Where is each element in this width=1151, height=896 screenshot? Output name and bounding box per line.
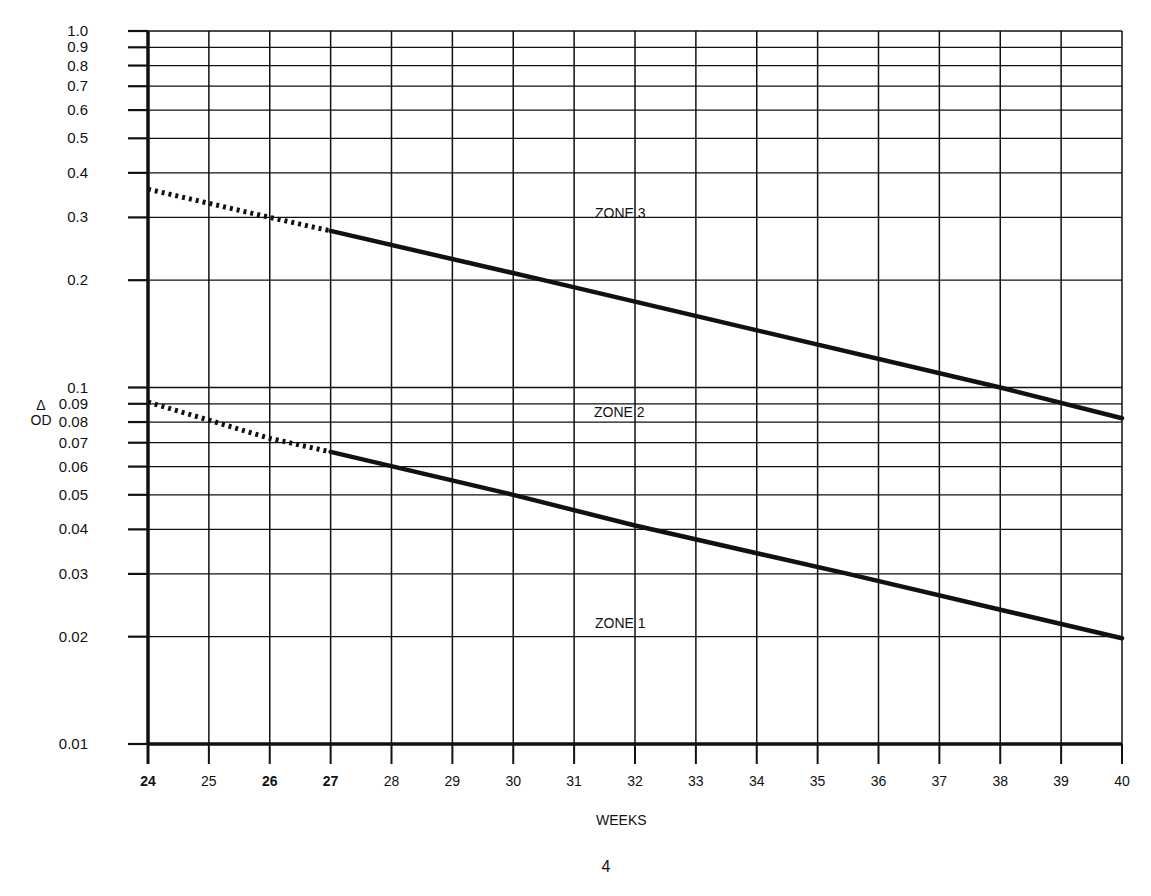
y-tick-label: 0.5	[28, 130, 88, 145]
x-axis-label: WEEKS	[596, 812, 647, 828]
x-tick-label: 40	[1102, 774, 1142, 788]
y-tick-label: 0.3	[28, 209, 88, 224]
x-tick-label: 26	[250, 774, 290, 788]
y-tick-label: 0.2	[28, 272, 88, 287]
y-tick-label: 0.6	[28, 102, 88, 117]
axes	[128, 31, 1122, 764]
x-tick-label: 32	[615, 774, 655, 788]
page-number: 4	[596, 858, 616, 876]
boundary-line-extrapolated	[148, 189, 331, 231]
x-tick-label: 29	[432, 774, 472, 788]
x-tick-label: 37	[919, 774, 959, 788]
y-tick-label: 0.7	[28, 78, 88, 93]
x-tick-label: 33	[676, 774, 716, 788]
y-axis-label: Δ OD	[26, 398, 56, 427]
boundary-line	[331, 231, 1122, 418]
y-tick-label: 0.9	[28, 39, 88, 54]
x-tick-label: 36	[859, 774, 899, 788]
x-tick-label: 25	[189, 774, 229, 788]
y-tick-label: 0.03	[28, 566, 88, 581]
y-tick-label: 0.04	[28, 521, 88, 536]
y-tick-label: 1.0	[28, 23, 88, 38]
x-tick-label: 31	[554, 774, 594, 788]
x-tick-label: 30	[493, 774, 533, 788]
y-tick-label: 0.4	[28, 165, 88, 180]
x-tick-label: 24	[128, 774, 168, 788]
zone-3-label: ZONE 3	[595, 206, 646, 220]
y-tick-label: 0.05	[28, 487, 88, 502]
x-tick-label: 35	[798, 774, 838, 788]
boundary-line-extrapolated	[148, 402, 331, 452]
boundary-line	[331, 452, 1122, 638]
zone-1-label: ZONE 1	[595, 616, 646, 630]
x-tick-label: 34	[737, 774, 777, 788]
y-tick-label: 0.07	[28, 435, 88, 450]
chart-plot-area	[0, 0, 1151, 896]
y-tick-label: 0.1	[28, 380, 88, 395]
y-axis-title: OD	[26, 413, 56, 428]
delta-symbol: Δ	[26, 398, 56, 413]
y-tick-label: 0.02	[28, 629, 88, 644]
grid-lines	[148, 31, 1122, 744]
y-tick-label: 0.06	[28, 459, 88, 474]
zone-2-label: ZONE 2	[594, 405, 645, 419]
x-tick-label: 27	[311, 774, 351, 788]
y-tick-label: 0.01	[28, 736, 88, 751]
x-tick-label: 38	[980, 774, 1020, 788]
x-tick-label: 28	[372, 774, 412, 788]
x-tick-label: 39	[1041, 774, 1081, 788]
y-tick-label: 0.8	[28, 58, 88, 73]
